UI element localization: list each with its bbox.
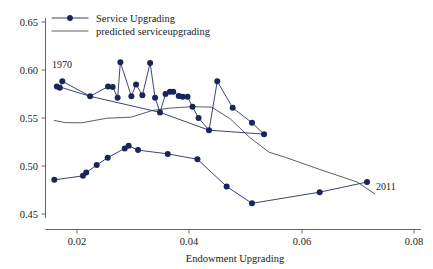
data-point-marker [152,95,158,101]
y-tick-label-0.45: 0.45 [20,209,38,220]
y-tick-label-0.55: 0.55 [20,113,38,124]
data-point-marker [110,84,116,90]
series-predicted-serviceupgrading [54,107,374,194]
data-point-marker [249,200,255,206]
data-point-marker [117,59,123,65]
data-point-marker [214,78,220,84]
x-tick-label-0.02: 0.02 [68,236,86,247]
annotation-2011: 2011 [376,181,396,192]
chart-annotations: 1970 2011 [52,59,396,192]
data-point-marker [194,156,200,162]
data-point-marker [94,162,100,168]
data-point-marker [139,92,145,98]
data-point-marker [157,109,163,115]
annotation-1970: 1970 [52,59,72,70]
y-tick-label-0.50: 0.50 [20,161,38,172]
legend-label-predicted: predicted serviceupgrading [96,26,211,37]
data-point-marker [83,170,89,176]
data-point-markers [51,59,370,206]
data-point-marker [261,131,267,137]
data-point-marker [190,104,196,110]
x-tick-label-0.08: 0.08 [405,236,423,247]
y-tick-label-0.65: 0.65 [20,17,38,28]
data-point-marker [126,143,132,149]
data-point-marker [133,81,139,87]
data-point-marker [147,60,153,66]
legend-swatch-service-upgrading-marker [67,15,73,21]
data-point-marker [57,85,63,91]
data-point-marker [87,93,93,99]
data-point-marker [59,78,65,84]
data-point-marker [105,155,111,161]
data-point-marker [185,94,191,100]
data-point-marker [51,177,57,183]
x-tick-label-0.06: 0.06 [293,236,311,247]
data-point-marker [206,127,212,133]
axis-x: 0.02 0.04 0.06 0.08 Endowment Upgrading [46,230,424,265]
data-point-marker [196,115,202,121]
chart-legend: Service Upgrading predicted serviceupgra… [52,13,211,37]
chart-figure: 0.65 0.60 0.55 0.50 0.45 0.02 0.04 0.06 … [0,0,433,269]
data-point-marker [165,151,171,157]
data-point-marker [115,95,121,101]
data-point-marker [135,147,141,153]
data-point-marker [224,183,230,189]
x-axis-title: Endowment Upgrading [186,253,285,264]
data-point-marker [170,89,176,95]
data-point-marker [230,105,236,111]
data-point-marker [128,93,134,99]
data-point-marker [249,120,255,126]
series-service-upgrading [54,62,367,203]
axis-y: 0.65 0.60 0.55 0.50 0.45 [20,17,46,220]
x-tick-label-0.04: 0.04 [180,236,199,247]
y-tick-label-0.60: 0.60 [20,65,38,76]
predicted-serviceupgrading-line [54,107,374,194]
legend-label-service-upgrading: Service Upgrading [96,13,176,24]
data-point-marker [317,189,323,195]
chart-plot-area: 0.65 0.60 0.55 0.50 0.45 0.02 0.04 0.06 … [0,0,433,269]
data-point-marker [364,179,370,185]
